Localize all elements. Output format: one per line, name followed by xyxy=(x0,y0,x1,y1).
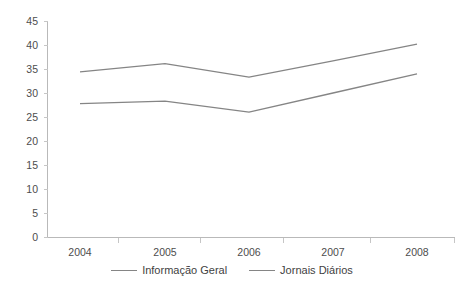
x-tick-label: 2004 xyxy=(68,246,92,258)
legend-item-jornais-diarios[interactable]: Jornais Diários xyxy=(249,264,353,277)
series-line-jornais-diarios xyxy=(80,74,417,112)
y-tick-label: 30 xyxy=(26,87,38,99)
chart-legend: Informação Geral Jornais Diários xyxy=(0,264,464,277)
y-axis-tick-labels: 45 40 35 30 25 20 15 10 5 0 xyxy=(26,15,38,243)
legend-item-label: Jornais Diários xyxy=(280,264,353,277)
x-tick-label: 2007 xyxy=(321,246,345,258)
x-axis-ticks xyxy=(119,238,455,244)
x-tick-label: 2006 xyxy=(237,246,261,258)
legend-line-icon xyxy=(249,270,275,271)
line-chart: 45 40 35 30 25 20 15 10 5 0 xyxy=(0,0,464,291)
x-axis-tick-labels: 2004 2005 2006 2007 2008 xyxy=(68,246,429,258)
y-tick-label: 40 xyxy=(26,39,38,51)
legend-line-icon xyxy=(111,270,137,271)
x-tick-label: 2008 xyxy=(405,246,429,258)
series-line-informacao-geral xyxy=(80,44,417,77)
y-axis-ticks xyxy=(44,22,48,238)
y-tick-label: 10 xyxy=(26,183,38,195)
chart-plot-area: 45 40 35 30 25 20 15 10 5 0 xyxy=(0,0,464,291)
y-tick-label: 0 xyxy=(32,231,38,243)
y-tick-label: 25 xyxy=(26,111,38,123)
y-tick-label: 5 xyxy=(32,207,38,219)
legend-item-informacao-geral[interactable]: Informação Geral xyxy=(111,264,227,277)
y-tick-label: 15 xyxy=(26,159,38,171)
y-tick-label: 20 xyxy=(26,135,38,147)
legend-item-label: Informação Geral xyxy=(142,264,227,277)
x-tick-label: 2005 xyxy=(153,246,177,258)
y-tick-label: 45 xyxy=(26,15,38,27)
y-tick-label: 35 xyxy=(26,63,38,75)
